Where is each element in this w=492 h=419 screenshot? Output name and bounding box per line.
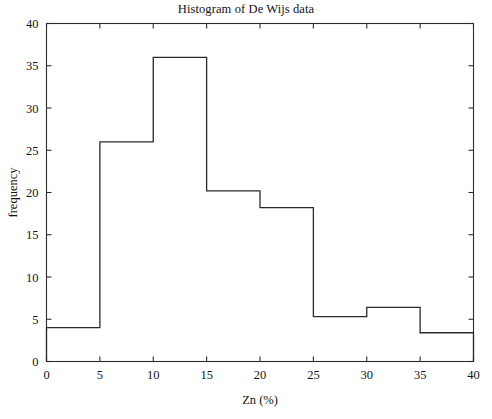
x-axis-title: Zn (%)	[242, 393, 278, 407]
x-tick-label: 35	[414, 368, 427, 382]
y-tick-label: 40	[26, 17, 39, 31]
y-axis-tick-labels: 0510152025303540	[26, 17, 39, 369]
x-tick-label: 15	[200, 368, 213, 382]
y-tick-label: 15	[26, 228, 39, 242]
x-tick-label: 30	[361, 368, 374, 382]
histogram-plot: 0510152025303540 0510152025303540 Zn (%)…	[0, 0, 492, 419]
x-tick-label: 10	[147, 368, 160, 382]
y-tick-label: 0	[32, 355, 38, 369]
y-tick-label: 25	[26, 144, 39, 158]
x-tick-label: 0	[43, 368, 49, 382]
x-tick-label: 5	[97, 368, 103, 382]
histogram-bars	[47, 57, 474, 361]
y-tick-label: 30	[26, 102, 39, 116]
x-tick-label: 40	[467, 368, 480, 382]
x-axis-tick-labels: 0510152025303540	[43, 368, 479, 382]
y-tick-label: 5	[32, 313, 38, 327]
x-tick-label: 25	[307, 368, 320, 382]
x-tick-label: 20	[254, 368, 267, 382]
y-tick-label: 10	[26, 271, 39, 285]
histogram-page: Histogram of De Wijs data 05101520253035…	[0, 0, 492, 419]
y-tick-label: 20	[26, 186, 39, 200]
y-axis-title: frequency	[6, 167, 20, 218]
y-tick-label: 35	[26, 59, 39, 73]
